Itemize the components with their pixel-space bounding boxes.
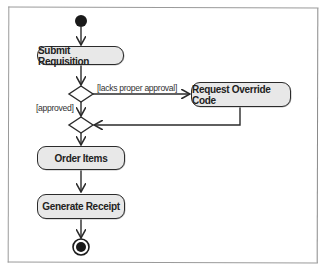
action-generate-receipt: Generate Receipt <box>37 194 125 219</box>
flow-override-merge <box>94 107 240 125</box>
guard-approved: [approved] <box>36 103 74 113</box>
initial-node-icon <box>75 15 87 27</box>
merge-diamond-icon <box>69 117 93 133</box>
action-submit-requisition: Submit Requisition <box>37 46 124 65</box>
action-order-items: Order Items <box>37 146 125 170</box>
guard-lacks-proper-approval: [lacks proper approval] <box>97 83 177 93</box>
action-request-override-code: Request Override Code <box>191 82 291 107</box>
decision-diamond-icon <box>69 86 93 102</box>
flow-lines <box>0 0 324 273</box>
final-node-icon <box>73 239 89 255</box>
